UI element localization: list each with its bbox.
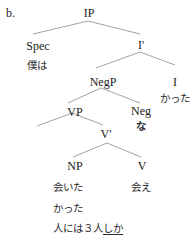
node-v-bar: V'	[101, 127, 112, 141]
node-spec: Spec	[26, 39, 49, 53]
np-word-line1: 会いた	[53, 180, 83, 194]
edge-ip-spec	[33, 21, 88, 34]
v-word: 会え	[131, 180, 151, 194]
node-v: V	[138, 159, 147, 173]
edge-ip-ibar	[88, 21, 140, 34]
node-np: NP	[67, 159, 82, 173]
edge-negp-neg	[101, 88, 140, 103]
neg-word: な	[136, 119, 146, 133]
edge-negp-vp	[68, 88, 101, 103]
spec-word: 僕は	[27, 58, 47, 72]
edge-ibar-negp	[96, 52, 140, 68]
edge-vbar-np	[73, 143, 107, 157]
np-word-line2: かった	[53, 201, 83, 215]
np-word-line3: 人には３人しか	[53, 221, 123, 235]
edge-vbar-v	[107, 143, 141, 157]
node-vp: VP	[67, 105, 82, 119]
np-word-line3-underlined: しか	[103, 222, 123, 234]
node-negp: NegP	[90, 75, 117, 89]
node-i: I	[173, 75, 177, 89]
i-word: かった	[160, 91, 190, 105]
np-word-line3-pre: 人には３人	[53, 222, 103, 234]
node-ip: IP	[84, 6, 95, 20]
node-neg: Neg	[131, 104, 151, 118]
tree-edges	[0, 0, 195, 236]
example-label: b.	[6, 6, 15, 20]
node-i-bar: I'	[138, 38, 144, 52]
edge-ibar-i	[140, 52, 175, 65]
